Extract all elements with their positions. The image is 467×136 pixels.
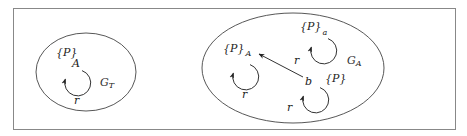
node-a-label: A <box>71 57 80 70</box>
loop-r-label: r <box>294 54 300 67</box>
self-loop-arrow-icon <box>311 39 337 64</box>
node-b-props-label: {P} <box>325 72 346 85</box>
graph-g-t-boundary <box>36 33 136 111</box>
graph-g-a: {P}A r {P}a r b {P} r GA <box>202 13 384 123</box>
node-a-props-label: {P}a <box>300 20 327 37</box>
graph-g-a-label: GA <box>347 54 362 68</box>
graph-g-t-label: GT <box>100 76 115 90</box>
diagram-canvas: {P} A r GT {P}A r {P}a r b {P} r GA <box>0 0 467 136</box>
loop-r-label: r <box>242 88 248 101</box>
loop-r-label: r <box>287 101 293 114</box>
self-loop-arrow-icon <box>65 71 91 96</box>
self-loop-arrow-icon <box>233 65 259 90</box>
self-loop-arrow-icon <box>303 88 329 113</box>
node-b-label: b <box>305 75 312 88</box>
node-A-props-label: {P}A <box>223 42 251 58</box>
graph-g-a-boundary <box>202 13 384 123</box>
graph-g-t: {P} A r GT <box>36 33 136 111</box>
loop-r-label: r <box>74 94 80 107</box>
